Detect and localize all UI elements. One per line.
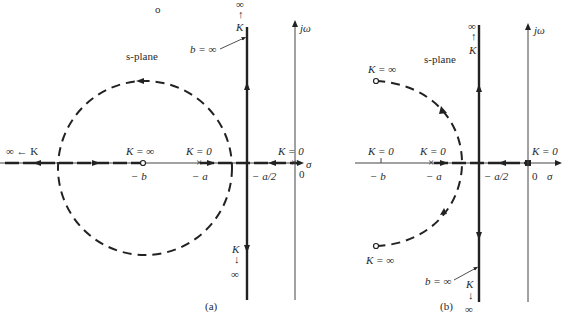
arc-arrow-up-b — [439, 106, 447, 114]
origin-label-a: 0 — [299, 168, 305, 180]
top-arrow-b: ↑ — [471, 30, 477, 42]
left-infinity-label-a: ∞ ← K — [6, 145, 38, 157]
origin-gain-label-b: K = 0 — [531, 145, 558, 157]
b-infinity-label-a: b = ∞ — [190, 43, 216, 55]
arrow-from-origin-b — [498, 160, 506, 166]
zero-gain-label-a: K = ∞ — [125, 145, 154, 157]
s-plane-label-b: s-plane — [424, 53, 456, 65]
locus-circle-a — [58, 81, 232, 255]
b-label-b: − b — [370, 170, 386, 182]
arrow-right-a — [92, 160, 100, 166]
bottom-arrow-b: ↓ — [468, 289, 474, 301]
root-locus-figure: o × × jω σ s-plane ∞ ← K — [0, 0, 563, 317]
imag-axis-arrow-b — [525, 23, 531, 30]
sigma-label-b: σ — [547, 170, 553, 182]
stray-mark: o — [155, 3, 161, 15]
pole-a-gain-label-b: K = 0 — [419, 145, 446, 157]
s-plane-label-a: s-plane — [126, 50, 158, 62]
real-axis-arrow-a — [297, 160, 304, 166]
real-axis-arrow-b — [555, 160, 562, 166]
asymptote-down-arrow-a — [244, 245, 250, 253]
bottom-infinity-b: ∞ — [465, 303, 473, 315]
panel-b: × jω σ s-plane K = ∞ K = ∞ K = 0 − b K =… — [355, 20, 562, 315]
pole-marker-a: × — [196, 156, 202, 168]
origin-gain-label-a: K = 0 — [277, 145, 304, 157]
pole-marker-b: × — [428, 156, 434, 168]
circle-arrow-a — [136, 78, 144, 84]
arrow-left-a — [33, 160, 41, 166]
caption-b: (b) — [440, 300, 453, 313]
zero-marker-a — [141, 161, 146, 166]
bottom-infinity-a: ∞ — [231, 268, 239, 280]
caption-a: (a) — [205, 300, 218, 313]
sigma-label-a: σ — [306, 158, 312, 170]
zero-lower-gain-label-b: K = ∞ — [365, 254, 394, 266]
asymptote-down-arrow-b — [476, 232, 482, 240]
arrow-from-origin-a — [268, 160, 276, 166]
top-k-b: K — [468, 44, 477, 56]
zero-label-a: − b — [131, 170, 147, 182]
pole-origin-marker-a: × — [291, 156, 297, 168]
zero-lower-marker-b — [374, 244, 379, 249]
b-infinity-pointer-a — [220, 38, 244, 49]
pole-a-gain-label-a: K = 0 — [185, 145, 212, 157]
origin-label-b: 0 — [532, 170, 538, 182]
pole-a-label-b: − a — [426, 170, 442, 182]
top-arrow-a: ↑ — [238, 8, 244, 20]
asymptote-label-a: − a/2 — [252, 170, 277, 182]
zero-upper-gain-label-b: K = ∞ — [367, 63, 396, 75]
arrow-from-pole-a — [207, 160, 215, 166]
panel-a: o × × jω σ s-plane ∞ ← K — [0, 0, 312, 313]
top-k-a: K — [235, 21, 244, 33]
bottom-arrow-a: ↓ — [234, 253, 240, 265]
arrow-from-pole-b — [440, 160, 448, 166]
jw-label-a: jω — [298, 22, 311, 34]
b-infinity-label-b: b = ∞ — [425, 275, 451, 287]
asymptote-label-b: − a/2 — [484, 170, 509, 182]
pole-a-label-a: − a — [192, 170, 208, 182]
asymptote-up-arrow-a — [244, 82, 250, 90]
imag-axis-arrow-a — [292, 20, 298, 27]
jw-label-b: jω — [532, 24, 545, 36]
zero-upper-marker-b — [374, 79, 379, 84]
b-gain-label-b: K = 0 — [367, 145, 394, 157]
asymptote-up-arrow-b — [476, 84, 482, 92]
